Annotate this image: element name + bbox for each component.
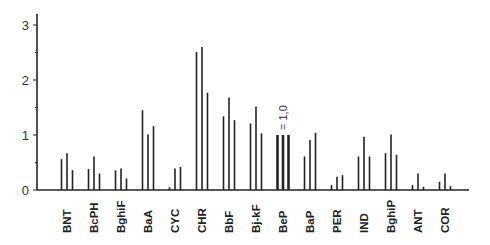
category-label: BbF xyxy=(223,211,235,233)
category-labels: BNTBcPHBghiFBaACYCCHRBbFBj-kFBePBaPPERIN… xyxy=(61,199,451,233)
category-label: IND xyxy=(358,213,370,233)
category-label: BaA xyxy=(142,210,154,233)
category-label: BaP xyxy=(304,210,316,233)
y-tick-label: 1 xyxy=(22,128,29,143)
y-axis: 0123 xyxy=(22,14,37,198)
category-label: BghiF xyxy=(115,200,127,233)
annotations: = 1,0 xyxy=(277,105,289,130)
category-label: PER xyxy=(331,209,343,233)
category-label: BeP xyxy=(277,210,289,233)
category-label: Bj-kF xyxy=(250,204,262,233)
category-label: COR xyxy=(439,207,451,233)
bar-chart: 0123 BNTBcPHBghiFBaACYCCHRBbFBj-kFBePBaP… xyxy=(0,0,490,245)
category-label: BcPH xyxy=(88,202,100,233)
y-tick-label: 3 xyxy=(22,18,29,33)
reference-annotation: = 1,0 xyxy=(277,105,289,130)
category-label: CYC xyxy=(169,209,181,233)
bars xyxy=(62,47,451,190)
category-label: BNT xyxy=(61,209,73,233)
y-tick-label: 2 xyxy=(22,73,29,88)
category-label: BghiP xyxy=(385,199,397,233)
category-label: CHR xyxy=(196,207,208,233)
y-tick-label: 0 xyxy=(22,183,29,198)
category-label: ANT xyxy=(412,209,424,233)
